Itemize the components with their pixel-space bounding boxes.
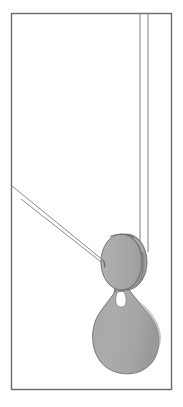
pulley-block-illustration [0, 0, 183, 407]
sheave-wheel [101, 234, 147, 290]
sheave-face [101, 234, 142, 290]
hook-eye [116, 292, 127, 308]
figure-canvas: Pulley block with hook and rope [0, 0, 183, 407]
